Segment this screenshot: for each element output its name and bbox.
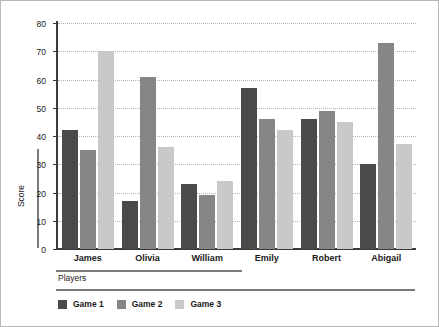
legend-item[interactable]: Game 2 xyxy=(117,299,163,309)
y-axis-tick-label: 50 xyxy=(37,104,46,114)
y-axis-tick-label: 70 xyxy=(37,47,46,57)
bar-chart-figure: Score 01020304050607080 JamesOliviaWilli… xyxy=(0,0,439,327)
x-axis-category-label: Emily xyxy=(237,253,297,263)
bar[interactable] xyxy=(122,201,138,249)
x-axis-category-labels: JamesOliviaWilliamEmilyRobertAbigail xyxy=(58,253,416,263)
legend-swatch xyxy=(58,300,67,309)
y-axis-tick-label: 80 xyxy=(37,19,46,29)
bar[interactable] xyxy=(319,111,335,249)
bar[interactable] xyxy=(396,144,412,249)
bar[interactable] xyxy=(277,130,293,249)
y-axis-title-text: Score xyxy=(16,185,26,207)
legend-swatch xyxy=(117,300,126,309)
x-axis-title-text: Players xyxy=(58,273,86,283)
legend-label: Game 3 xyxy=(190,299,221,309)
legend: Game 1Game 2Game 3 xyxy=(58,299,221,309)
bar-group xyxy=(118,23,178,249)
bar[interactable] xyxy=(140,77,156,249)
bar[interactable] xyxy=(259,119,275,249)
bar-group xyxy=(237,23,297,249)
x-axis-category-label: Olivia xyxy=(118,253,178,263)
y-axis-tick-label: 30 xyxy=(37,160,46,170)
bar[interactable] xyxy=(80,150,96,249)
y-axis-title: Score xyxy=(14,151,28,241)
category-separator-rule xyxy=(56,270,242,272)
legend-swatch xyxy=(175,300,184,309)
x-axis-category-label: Robert xyxy=(297,253,357,263)
y-axis-tick-label: 0 xyxy=(41,245,46,255)
legend-label: Game 2 xyxy=(132,299,163,309)
bar-group xyxy=(58,23,118,249)
y-axis-tick-label: 40 xyxy=(37,132,46,142)
bar-group xyxy=(297,23,357,249)
bars-layer xyxy=(58,23,416,249)
bar-group xyxy=(177,23,237,249)
bar[interactable] xyxy=(199,195,215,249)
bar[interactable] xyxy=(241,88,257,249)
x-axis-category-label: Abigail xyxy=(356,253,416,263)
legend-label: Game 1 xyxy=(73,299,104,309)
x-axis-category-label: William xyxy=(177,253,237,263)
bar[interactable] xyxy=(158,147,174,249)
bar[interactable] xyxy=(360,164,376,249)
bar[interactable] xyxy=(181,184,197,249)
x-axis-category-label: James xyxy=(58,253,118,263)
plot-area: 01020304050607080 xyxy=(58,23,416,249)
bar[interactable] xyxy=(337,122,353,249)
legend-item[interactable]: Game 1 xyxy=(58,299,104,309)
y-axis-tick-label: 60 xyxy=(37,76,46,86)
bar-group xyxy=(356,23,416,249)
bar[interactable] xyxy=(301,119,317,249)
y-axis-tick: 0 xyxy=(53,249,58,250)
bar[interactable] xyxy=(378,43,394,249)
legend-item[interactable]: Game 3 xyxy=(175,299,221,309)
bar[interactable] xyxy=(62,130,78,249)
legend-separator-rule xyxy=(56,289,415,291)
bar[interactable] xyxy=(217,181,233,249)
y-axis-tick-label: 10 xyxy=(37,217,46,227)
bar[interactable] xyxy=(98,51,114,249)
y-axis-tick-label: 20 xyxy=(37,189,46,199)
